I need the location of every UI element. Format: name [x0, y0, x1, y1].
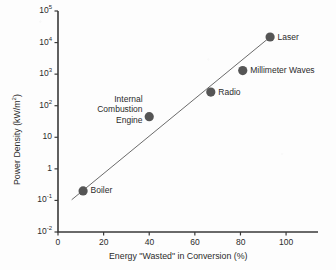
y-tick-label: 10-2	[37, 227, 52, 236]
data-point-marker[interactable]	[266, 32, 275, 41]
y-tick-label: 105	[39, 6, 52, 15]
data-point-label: Boiler	[91, 186, 113, 195]
data-point-label: Laser	[278, 33, 299, 42]
axes	[55, 11, 319, 236]
x-tick-label: 0	[56, 238, 61, 247]
y-axis-title-exponent: 2	[11, 97, 17, 100]
y-tick-label: 104	[39, 38, 52, 47]
data-point-label: Millimeter Waves	[250, 66, 314, 75]
x-tick-label: 40	[145, 238, 154, 247]
y-axis-title: Power Density (kW/m2)	[13, 94, 22, 185]
data-point-label: Radio	[218, 88, 240, 97]
data-point-label: InternalCombustionEngine	[97, 94, 142, 126]
data-point-marker[interactable]	[145, 112, 154, 121]
x-axis-title: Energy "Wasted" in Conversion (%)	[109, 252, 247, 261]
y-axis-title-tail: )	[12, 94, 22, 97]
y-tick-label: 102	[39, 101, 52, 110]
y-tick-label: 103	[39, 69, 52, 78]
data-point-marker[interactable]	[78, 186, 87, 195]
y-tick-label: 10	[43, 132, 52, 141]
data-point-marker[interactable]	[238, 66, 247, 75]
x-tick-label: 100	[279, 238, 293, 247]
y-tick-label: 10-1	[37, 195, 52, 204]
x-tick-label: 60	[190, 238, 199, 247]
x-tick-label: 80	[236, 238, 245, 247]
y-axis-title-text: Power Density (kW/m	[12, 100, 22, 185]
y-tick-label: 1	[47, 164, 52, 173]
chart-container: Power Density (kW/m2) Energy "Wasted" in…	[0, 0, 336, 270]
data-point-marker[interactable]	[206, 87, 215, 96]
x-tick-label: 20	[99, 238, 108, 247]
